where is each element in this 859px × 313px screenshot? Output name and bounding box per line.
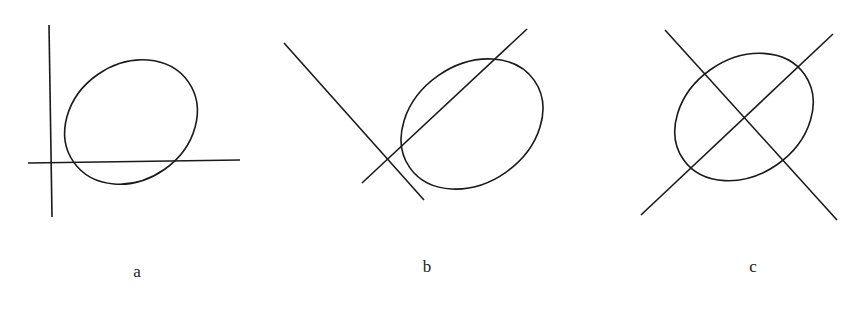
panel-c (641, 27, 838, 220)
ellipse-a (40, 34, 221, 209)
diagonal-line-c2 (641, 34, 833, 215)
diagonal-line-c1 (665, 30, 837, 220)
panel-label-c: c (749, 257, 757, 277)
vertical-axis-a (49, 25, 52, 217)
ellipse-b (376, 32, 568, 216)
panel-label-b: b (423, 257, 432, 277)
panel-b (284, 29, 568, 216)
diagonal-line-b2 (362, 29, 527, 183)
panel-a (28, 25, 240, 217)
panel-label-a: a (133, 262, 141, 282)
horizontal-axis-a (28, 160, 240, 163)
